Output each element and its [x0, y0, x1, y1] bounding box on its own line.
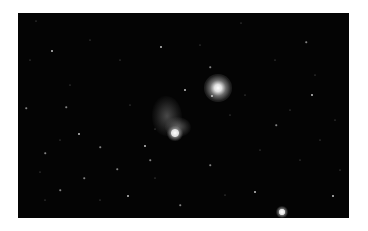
star: [44, 152, 46, 154]
star: [184, 89, 186, 91]
star: [51, 50, 53, 52]
star: [155, 178, 156, 179]
star: [241, 23, 242, 24]
star: [127, 195, 129, 197]
star: [155, 129, 156, 130]
star: [290, 110, 291, 111]
star: [60, 140, 61, 141]
star: [332, 195, 334, 197]
star: [70, 85, 71, 86]
star: [320, 140, 321, 141]
star: [100, 200, 101, 201]
bright-star: [204, 74, 232, 102]
star: [275, 60, 276, 61]
star: [340, 170, 341, 171]
star: [225, 195, 226, 196]
star: [275, 124, 277, 126]
star: [160, 46, 162, 48]
star: [200, 45, 201, 46]
star: [245, 95, 246, 96]
star: [254, 191, 256, 193]
star: [120, 60, 121, 61]
star: [59, 189, 61, 191]
bright-star: [167, 125, 183, 141]
star: [300, 160, 301, 161]
star: [99, 146, 101, 148]
star: [209, 164, 211, 166]
star: [149, 159, 151, 161]
star: [130, 105, 131, 106]
star: [30, 60, 31, 61]
star: [45, 200, 46, 201]
star: [40, 172, 41, 173]
star: [211, 95, 213, 97]
star: [90, 40, 91, 41]
star: [315, 75, 316, 76]
star: [36, 21, 37, 22]
star: [78, 133, 80, 135]
star: [25, 107, 27, 109]
star: [230, 115, 231, 116]
star: [260, 150, 261, 151]
star: [116, 168, 118, 170]
star: [335, 120, 336, 121]
star: [65, 106, 67, 108]
star: [209, 66, 211, 68]
star: [144, 145, 146, 147]
star-field-image: [18, 13, 349, 218]
star: [179, 204, 181, 206]
star: [305, 41, 307, 43]
star: [83, 177, 85, 179]
bright-star: [276, 206, 288, 218]
star: [311, 94, 313, 96]
